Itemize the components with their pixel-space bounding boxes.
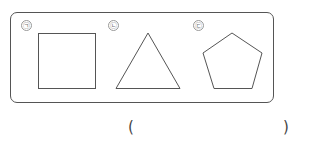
answer-blank[interactable] — [140, 118, 280, 136]
triangle-shape — [116, 33, 180, 89]
answer-close-paren: ) — [283, 118, 289, 136]
square-shape — [39, 34, 96, 89]
pentagon-shape — [203, 33, 262, 89]
answer-open-paren: ( — [128, 118, 134, 136]
